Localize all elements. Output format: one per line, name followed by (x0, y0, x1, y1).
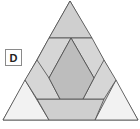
top-triangle (49, 1, 92, 38)
triangle-dissection-figure (0, 0, 140, 129)
bottom-band (37, 99, 104, 120)
